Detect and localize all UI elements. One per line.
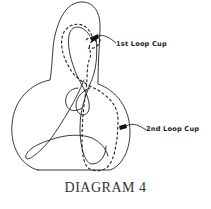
cord-solid-left-loop	[26, 80, 108, 159]
cord-solid-small-loop	[66, 88, 82, 111]
outer-outline	[12, 2, 130, 170]
cord-dashed	[62, 24, 118, 170]
diagram-caption: DIAGRAM 4	[0, 180, 211, 196]
knot-diagram: 1st Loop Cup 2nd Loop Cup	[0, 0, 211, 209]
second-loop-cup	[119, 124, 127, 130]
second-loop-cup-label: 2nd Loop Cup	[146, 125, 199, 133]
second-cup-leader	[126, 124, 146, 130]
first-loop-cup-label: 1st Loop Cup	[116, 40, 167, 48]
first-cup-leader	[98, 35, 116, 43]
